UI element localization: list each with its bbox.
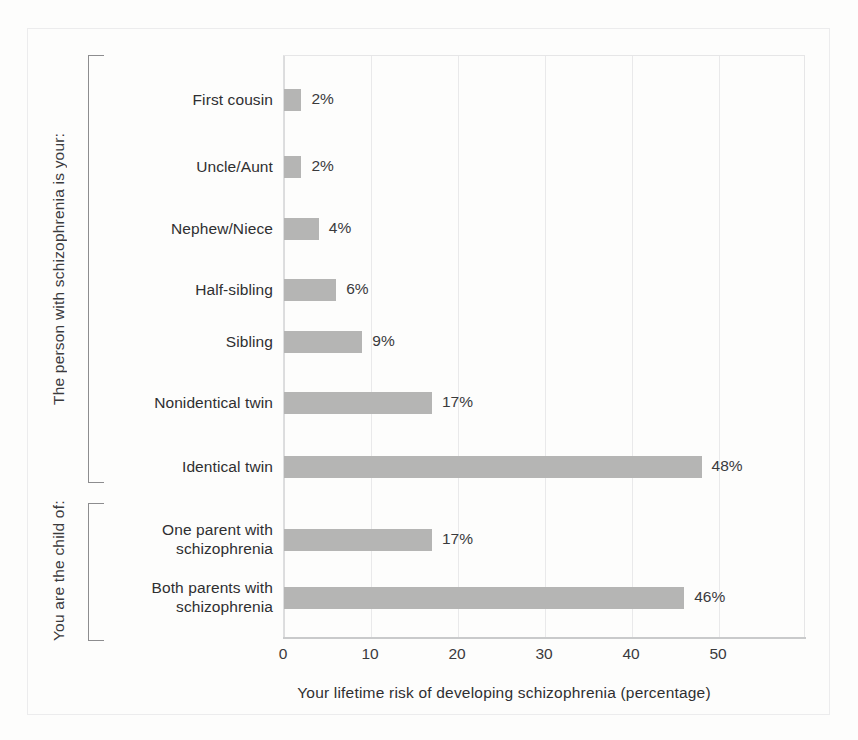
x-tick-label: 10 [350, 645, 390, 663]
bar-value-label: 4% [329, 217, 351, 239]
category-label: Uncle/Aunt [103, 157, 273, 176]
chart-figure: The person with schizophrenia is your: Y… [0, 0, 858, 740]
bar-value-label: 2% [311, 88, 333, 110]
bar [284, 456, 702, 478]
group-bracket-parents [88, 503, 104, 641]
category-label: One parent with schizophrenia [103, 520, 273, 558]
gridline-40 [632, 56, 633, 637]
bar [284, 587, 684, 609]
x-axis-title: Your lifetime risk of developing schizop… [0, 684, 858, 702]
bar-value-label: 17% [442, 391, 473, 413]
category-label: Nonidentical twin [103, 393, 273, 412]
bar [284, 89, 301, 111]
bar [284, 218, 319, 240]
gridline-50 [719, 56, 720, 637]
x-tick-label: 50 [698, 645, 738, 663]
x-axis-line [283, 637, 806, 639]
bar [284, 392, 432, 414]
x-tick-label: 20 [437, 645, 477, 663]
group-axis-title-you-are-the-child-of: You are the child of: [50, 503, 68, 641]
category-label: First cousin [103, 90, 273, 109]
gridline-30 [545, 56, 546, 637]
group-axis-title-person-with-schizophrenia: The person with schizophrenia is your: [50, 55, 68, 483]
bar [284, 331, 362, 353]
bar-value-label: 17% [442, 528, 473, 550]
x-tick-label: 40 [611, 645, 651, 663]
x-tick-label: 30 [524, 645, 564, 663]
plot-area [283, 55, 805, 638]
category-label: Both parents with schizophrenia [103, 578, 273, 616]
category-label: Sibling [103, 332, 273, 351]
bar [284, 529, 432, 551]
bar [284, 156, 301, 178]
bar-value-label: 6% [346, 278, 368, 300]
group-bracket-relatives [88, 55, 104, 483]
bar-value-label: 46% [694, 586, 725, 608]
bar-value-label: 9% [372, 330, 394, 352]
category-label: Half-sibling [103, 280, 273, 299]
bar [284, 279, 336, 301]
category-label: Nephew/Niece [103, 219, 273, 238]
bar-value-label: 2% [311, 155, 333, 177]
bar-value-label: 48% [712, 455, 743, 477]
x-tick-label: 0 [263, 645, 303, 663]
category-label: Identical twin [103, 457, 273, 476]
x-axis-title-text: Your lifetime risk of developing schizop… [147, 684, 711, 702]
